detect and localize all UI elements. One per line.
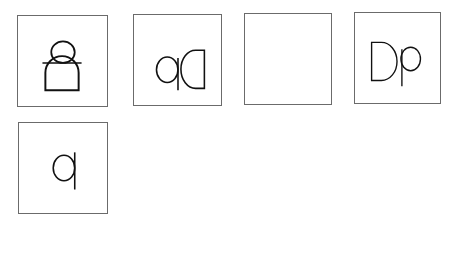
mirrored-dp-figure xyxy=(134,15,221,105)
sequence-panel-1 xyxy=(17,15,108,107)
rotated-dp-figure xyxy=(18,16,107,106)
sequence-panel-2 xyxy=(133,14,222,106)
option-a-panel[interactable] xyxy=(18,122,108,214)
rotated-180-dp-figure xyxy=(19,123,107,213)
dp-figure xyxy=(355,13,440,103)
sequence-panel-4 xyxy=(354,12,441,104)
sequence-panel-3 xyxy=(244,13,332,105)
